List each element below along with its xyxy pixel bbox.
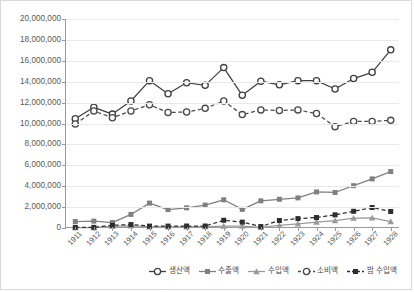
x-axis-tick-label: 1918 [196, 230, 213, 247]
gridline [66, 207, 399, 208]
legend-label: 생산액 [169, 267, 190, 275]
gridline [66, 124, 399, 125]
legend-item-1[interactable]: 생산액 [149, 267, 190, 276]
series-1 [72, 47, 394, 122]
x-axis-tick-label: 1924 [308, 230, 325, 247]
x-axis-labels: 1911191219131914191519161917191819191920… [65, 230, 399, 260]
series-marker [388, 209, 393, 214]
series-line [75, 172, 390, 223]
series-marker [128, 108, 134, 114]
series-marker [258, 198, 263, 203]
x-axis-tick-label: 1923 [289, 230, 306, 247]
x-axis-tick-label: 1913 [103, 230, 120, 247]
y-axis-tick-label: 16,000,000 [20, 57, 61, 65]
series-marker [388, 169, 393, 174]
y-tick [62, 40, 66, 41]
series-marker [258, 107, 264, 113]
y-axis-tick-label: 12,000,000 [20, 98, 61, 106]
y-tick [62, 19, 66, 20]
series-marker [332, 86, 338, 92]
y-axis-tick-label: 14,000,000 [20, 78, 61, 86]
gridline [66, 165, 399, 166]
series-marker [295, 195, 300, 200]
series-marker [314, 189, 319, 194]
series-marker [239, 92, 245, 98]
gridline [66, 186, 399, 187]
y-tick [62, 228, 66, 229]
y-axis-tick-label: 18,000,000 [20, 36, 61, 44]
legend-label: 밤 수입액 [367, 267, 397, 275]
x-axis-tick-label: 1917 [178, 230, 195, 247]
series-marker [239, 112, 245, 118]
y-tick [62, 186, 66, 187]
legend-label: 수입액 [268, 267, 289, 275]
y-axis-tick-label: 8,000,000 [25, 140, 61, 148]
series-marker [221, 218, 226, 223]
legend-marker-icon [298, 267, 315, 276]
series-marker [277, 197, 282, 202]
series-marker [146, 78, 152, 84]
series-marker [184, 80, 190, 86]
series-marker [313, 78, 319, 84]
series-marker [388, 47, 394, 53]
legend-item-3[interactable]: 수입액 [248, 267, 289, 276]
legend-item-2[interactable]: 수출액 [199, 267, 240, 276]
y-tick [62, 82, 66, 83]
y-tick [62, 165, 66, 166]
series-marker [295, 216, 300, 221]
series-marker [73, 219, 78, 224]
gridline [66, 144, 399, 145]
y-tick [62, 103, 66, 104]
series-marker [295, 107, 301, 113]
series-line [75, 218, 390, 228]
x-axis-tick-label: 1921 [252, 230, 269, 247]
series-marker [276, 107, 282, 113]
series-marker [295, 78, 301, 84]
x-axis-tick-label: 1926 [345, 230, 362, 247]
series-3 [72, 215, 394, 231]
series-2 [73, 169, 393, 225]
legend-marker-icon [248, 267, 265, 276]
y-axis-tick-label: 0 [56, 224, 61, 232]
x-axis-tick-label: 1925 [326, 230, 343, 247]
x-axis-tick-label: 1916 [159, 230, 176, 247]
legend-marker-icon [199, 267, 216, 276]
x-axis-tick-label: 1914 [122, 230, 139, 247]
y-tick [62, 207, 66, 208]
series-marker [314, 215, 319, 220]
y-axis-tick-label: 4,000,000 [25, 182, 61, 190]
x-axis-tick-label: 1920 [233, 230, 250, 247]
y-tick [62, 124, 66, 125]
x-axis-tick-label: 1919 [215, 230, 232, 247]
series-marker [202, 105, 208, 111]
y-axis-tick-label: 10,000,000 [20, 119, 61, 127]
gridline [66, 61, 399, 62]
y-axis-tick-label: 2,000,000 [25, 203, 61, 211]
series-marker [333, 212, 338, 217]
series-marker [370, 176, 375, 181]
series-marker [147, 201, 152, 206]
series-marker [109, 115, 115, 121]
legend-label: 수출액 [218, 267, 239, 275]
legend-item-4[interactable]: 소비액 [298, 267, 339, 276]
gridline [66, 19, 399, 20]
x-axis-tick-label: 1922 [270, 230, 287, 247]
legend-item-5[interactable]: 밤 수입액 [347, 267, 397, 276]
x-axis-tick-label: 1915 [141, 230, 158, 247]
series-marker [202, 82, 208, 88]
series-marker [240, 220, 245, 225]
series-marker [184, 109, 190, 115]
series-marker [369, 69, 375, 75]
series-marker [313, 110, 319, 116]
y-axis-labels: 02,000,0004,000,0006,000,0008,000,00010,… [1, 19, 61, 228]
plot-area [65, 19, 399, 228]
x-axis-tick-label: 1912 [85, 230, 102, 247]
y-tick [62, 144, 66, 145]
y-axis-tick-label: 6,000,000 [25, 161, 61, 169]
series-marker [351, 209, 356, 214]
legend-marker-icon [347, 267, 364, 276]
series-marker [128, 212, 133, 217]
series-marker [221, 197, 226, 202]
series-marker [333, 190, 338, 195]
series-marker [277, 218, 282, 223]
